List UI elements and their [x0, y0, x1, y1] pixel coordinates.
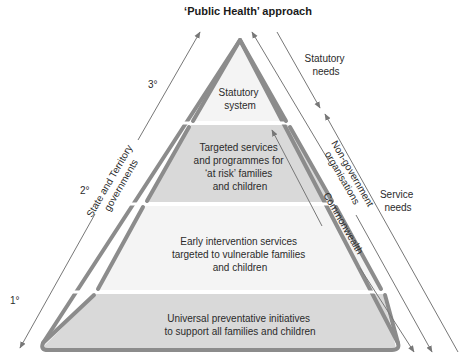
- statutory-needs-label: Statutory needs: [305, 53, 348, 77]
- public-health-pyramid-diagram: ‘Public Health’ approach Statutory syste…: [0, 0, 468, 362]
- state-territory-label: State and Territory governments: [84, 140, 146, 225]
- diagram-title: ‘Public Health’ approach: [184, 5, 312, 17]
- service-needs-label: Service needs: [380, 189, 416, 213]
- level-tertiary-label: 3°: [148, 79, 158, 90]
- level-primary-label: 1°: [10, 295, 20, 306]
- level-secondary-label: 2°: [80, 185, 90, 196]
